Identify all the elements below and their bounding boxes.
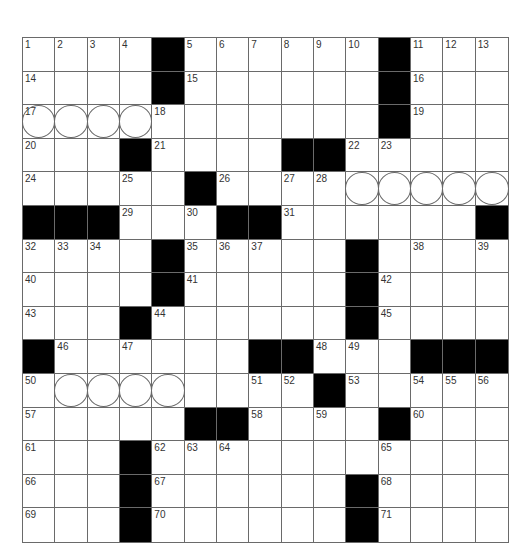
grid-cell[interactable]: 26 [217, 172, 249, 206]
grid-cell[interactable]: 47 [120, 340, 152, 374]
grid-cell[interactable] [379, 340, 411, 374]
grid-cell[interactable] [314, 441, 346, 475]
grid-cell[interactable] [282, 72, 314, 106]
grid-cell[interactable] [217, 508, 249, 542]
grid-cell[interactable] [443, 105, 475, 139]
grid-cell[interactable]: 54 [411, 374, 443, 408]
grid-cell[interactable] [314, 206, 346, 240]
grid-cell[interactable]: 13 [476, 38, 508, 72]
grid-cell[interactable] [443, 273, 475, 307]
grid-cell[interactable]: 35 [185, 240, 217, 274]
grid-cell[interactable] [249, 139, 281, 173]
grid-cell[interactable] [314, 240, 346, 274]
grid-cell[interactable]: 43 [23, 307, 55, 341]
grid-cell[interactable] [411, 441, 443, 475]
grid-cell[interactable] [282, 307, 314, 341]
grid-cell[interactable]: 24 [23, 172, 55, 206]
grid-cell[interactable] [217, 139, 249, 173]
grid-cell[interactable] [314, 72, 346, 106]
grid-cell[interactable]: 9 [314, 38, 346, 72]
grid-cell[interactable] [120, 408, 152, 442]
grid-cell[interactable] [217, 475, 249, 509]
grid-cell[interactable] [411, 273, 443, 307]
grid-cell[interactable] [249, 72, 281, 106]
grid-cell[interactable] [185, 374, 217, 408]
grid-cell[interactable] [88, 139, 120, 173]
grid-cell[interactable] [152, 374, 184, 408]
grid-cell[interactable] [152, 408, 184, 442]
grid-cell[interactable] [185, 307, 217, 341]
grid-cell[interactable]: 14 [23, 72, 55, 106]
grid-cell[interactable] [249, 105, 281, 139]
grid-cell[interactable] [476, 475, 508, 509]
grid-cell[interactable]: 60 [411, 408, 443, 442]
grid-cell[interactable] [249, 307, 281, 341]
grid-cell[interactable]: 10 [346, 38, 378, 72]
grid-cell[interactable] [55, 105, 87, 139]
grid-cell[interactable]: 52 [282, 374, 314, 408]
grid-cell[interactable] [185, 105, 217, 139]
grid-cell[interactable] [443, 72, 475, 106]
grid-cell[interactable] [476, 408, 508, 442]
grid-cell[interactable] [476, 307, 508, 341]
grid-cell[interactable] [217, 105, 249, 139]
grid-cell[interactable] [346, 172, 378, 206]
grid-cell[interactable]: 1 [23, 38, 55, 72]
grid-cell[interactable] [88, 105, 120, 139]
grid-cell[interactable] [217, 374, 249, 408]
grid-cell[interactable] [282, 508, 314, 542]
grid-cell[interactable]: 42 [379, 273, 411, 307]
grid-cell[interactable]: 15 [185, 72, 217, 106]
grid-cell[interactable] [185, 475, 217, 509]
grid-cell[interactable] [55, 374, 87, 408]
grid-cell[interactable] [346, 441, 378, 475]
grid-cell[interactable]: 5 [185, 38, 217, 72]
grid-cell[interactable] [443, 307, 475, 341]
grid-cell[interactable] [120, 72, 152, 106]
grid-cell[interactable]: 39 [476, 240, 508, 274]
grid-cell[interactable] [88, 307, 120, 341]
grid-cell[interactable] [314, 307, 346, 341]
grid-cell[interactable] [282, 240, 314, 274]
grid-cell[interactable] [379, 240, 411, 274]
grid-cell[interactable] [185, 508, 217, 542]
grid-cell[interactable] [217, 340, 249, 374]
grid-cell[interactable]: 40 [23, 273, 55, 307]
grid-cell[interactable] [282, 273, 314, 307]
grid-cell[interactable]: 30 [185, 206, 217, 240]
grid-cell[interactable]: 7 [249, 38, 281, 72]
grid-cell[interactable] [249, 441, 281, 475]
grid-cell[interactable]: 41 [185, 273, 217, 307]
grid-cell[interactable]: 69 [23, 508, 55, 542]
grid-cell[interactable] [443, 408, 475, 442]
grid-cell[interactable]: 57 [23, 408, 55, 442]
grid-cell[interactable] [249, 273, 281, 307]
grid-cell[interactable]: 53 [346, 374, 378, 408]
grid-cell[interactable] [443, 139, 475, 173]
grid-cell[interactable] [55, 508, 87, 542]
grid-cell[interactable] [443, 206, 475, 240]
grid-cell[interactable]: 27 [282, 172, 314, 206]
grid-cell[interactable]: 49 [346, 340, 378, 374]
grid-cell[interactable] [249, 172, 281, 206]
grid-cell[interactable] [88, 441, 120, 475]
grid-cell[interactable] [152, 206, 184, 240]
grid-cell[interactable] [88, 340, 120, 374]
grid-cell[interactable]: 2 [55, 38, 87, 72]
grid-cell[interactable] [88, 408, 120, 442]
grid-cell[interactable] [346, 206, 378, 240]
grid-cell[interactable]: 34 [88, 240, 120, 274]
grid-cell[interactable]: 63 [185, 441, 217, 475]
grid-cell[interactable] [476, 105, 508, 139]
grid-cell[interactable]: 36 [217, 240, 249, 274]
grid-cell[interactable] [88, 508, 120, 542]
grid-cell[interactable] [411, 307, 443, 341]
grid-cell[interactable] [411, 475, 443, 509]
grid-cell[interactable] [379, 374, 411, 408]
grid-cell[interactable] [55, 408, 87, 442]
grid-cell[interactable] [55, 139, 87, 173]
grid-cell[interactable]: 46 [55, 340, 87, 374]
grid-cell[interactable]: 71 [379, 508, 411, 542]
grid-cell[interactable]: 61 [23, 441, 55, 475]
grid-cell[interactable] [314, 273, 346, 307]
